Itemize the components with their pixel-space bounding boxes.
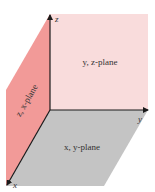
- xy-plane-label: x, y-plane: [64, 142, 100, 152]
- coordinate-planes-diagram: z y x y, z-plane x, y-plane z, x-plane: [0, 0, 155, 192]
- x-axis-label: x: [12, 180, 17, 190]
- y-axis-label: y: [137, 114, 142, 124]
- yz-plane-label: y, z-plane: [83, 57, 118, 67]
- z-axis-label: z: [54, 14, 59, 24]
